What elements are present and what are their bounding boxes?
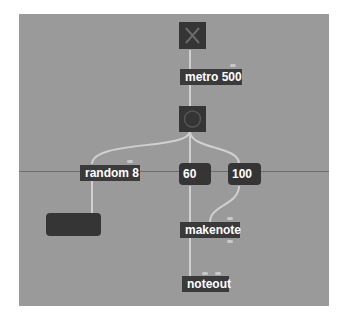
inlet-hint xyxy=(215,272,221,275)
outlet-hint xyxy=(227,240,233,243)
toggle[interactable] xyxy=(179,22,206,49)
random-object[interactable]: random 8 xyxy=(80,165,140,181)
inlet-hint xyxy=(227,217,233,220)
velocity-number-box[interactable]: 100 xyxy=(228,163,261,185)
bang-button[interactable] xyxy=(179,106,206,132)
pitch-number-box[interactable]: 60 xyxy=(179,163,211,185)
inlet-hint xyxy=(230,64,236,67)
x-icon xyxy=(179,22,206,49)
inlet-hint xyxy=(202,272,208,275)
divider-line xyxy=(19,171,329,172)
output-number-box[interactable] xyxy=(46,213,101,236)
makenote-object[interactable]: makenote xyxy=(180,222,240,238)
noteout-object[interactable]: noteout xyxy=(182,276,229,292)
circle-icon xyxy=(179,106,206,132)
patcher-canvas[interactable] xyxy=(19,14,329,306)
inlet-hint xyxy=(127,160,133,163)
metro-object[interactable]: metro 500 xyxy=(180,69,242,85)
